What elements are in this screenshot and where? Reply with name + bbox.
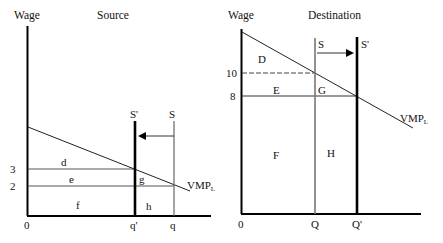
source-panel: Wage Source S' S 3 2 0 q' q d e f g h VM… bbox=[10, 9, 215, 231]
destination-vmp-line bbox=[242, 32, 413, 128]
destination-area-F: F bbox=[273, 149, 279, 161]
destination-s-label: S bbox=[318, 38, 324, 50]
source-y-axis-label: Wage bbox=[14, 9, 40, 22]
diagram-canvas: Wage Source S' S 3 2 0 q' q d e f g h VM… bbox=[0, 0, 443, 243]
source-area-g: g bbox=[139, 173, 145, 185]
source-area-h: h bbox=[146, 200, 152, 212]
source-title: Source bbox=[97, 9, 129, 21]
source-x-tick-q: q bbox=[170, 219, 176, 231]
source-area-d: d bbox=[61, 156, 67, 168]
source-y-tick-2: 2 bbox=[10, 180, 16, 192]
source-s-prime-label: S' bbox=[130, 108, 138, 120]
destination-panel: Wage Destination S S' 10 8 0 Q Q' D E G … bbox=[226, 9, 428, 230]
destination-y-axis-label: Wage bbox=[228, 9, 254, 22]
destination-area-D: D bbox=[258, 53, 266, 65]
destination-vmp-label: VMPL bbox=[400, 112, 428, 126]
source-vmp-line bbox=[28, 127, 190, 191]
source-s-label: S bbox=[169, 108, 175, 120]
source-area-f: f bbox=[76, 199, 80, 211]
destination-y-tick-8: 8 bbox=[230, 90, 236, 102]
destination-x-tick-Q: Q bbox=[311, 218, 319, 230]
destination-area-G: G bbox=[318, 84, 326, 96]
destination-area-E: E bbox=[273, 84, 280, 96]
destination-area-H: H bbox=[327, 147, 335, 159]
source-area-e: e bbox=[69, 173, 74, 185]
destination-y-tick-10: 10 bbox=[226, 67, 238, 79]
source-x-tick-0: 0 bbox=[24, 219, 30, 231]
destination-s-prime-label: S' bbox=[361, 38, 369, 50]
source-y-tick-3: 3 bbox=[10, 163, 16, 175]
destination-title: Destination bbox=[308, 9, 361, 21]
destination-x-tick-0: 0 bbox=[238, 218, 244, 230]
destination-x-tick-Q-prime: Q' bbox=[352, 218, 362, 230]
source-x-tick-q-prime: q' bbox=[130, 219, 138, 231]
source-vmp-label: VMPL bbox=[187, 179, 215, 193]
